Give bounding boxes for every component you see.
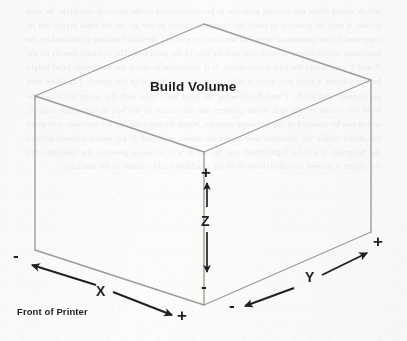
x-axis-negative-arrow — [32, 265, 96, 285]
cube-bottom-left-edge — [35, 250, 204, 305]
y-axis-negative-arrow — [245, 288, 294, 306]
build-volume-title: Build Volume — [150, 79, 236, 94]
x-axis-positive-arrow — [113, 292, 172, 315]
y-axis-positive-arrow — [322, 253, 367, 275]
x-axis-label: X — [96, 283, 105, 299]
y-axis-minus-sign: - — [229, 297, 235, 314]
x-axis-plus-sign: + — [177, 307, 187, 324]
x-axis-minus-sign: - — [13, 247, 19, 264]
cube-bottom-right-edge — [204, 232, 371, 305]
y-axis-label: Y — [305, 269, 314, 285]
z-axis-label: Z — [201, 213, 210, 229]
z-axis-minus-sign: - — [201, 278, 207, 295]
figure-canvas: which would allow the moving platform to… — [0, 0, 407, 341]
front-of-printer-label: Front of Printer — [17, 306, 88, 317]
z-axis-plus-sign: + — [201, 164, 211, 181]
y-axis-plus-sign: + — [373, 233, 383, 250]
